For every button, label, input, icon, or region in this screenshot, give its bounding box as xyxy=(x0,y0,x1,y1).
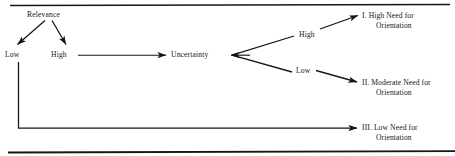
bottom-rule xyxy=(8,151,455,152)
outcome-2-line-2: Orientation xyxy=(362,88,431,98)
outcome-2-line-1: II. Moderate Need for xyxy=(362,78,431,87)
node-uncertainty: Uncertainty xyxy=(171,50,209,60)
outcome-low-need: III. Low Need for Orientation xyxy=(362,123,418,143)
node-uncertainty-low: Low xyxy=(296,66,310,76)
outcome-moderate-need: II. Moderate Need for Orientation xyxy=(362,78,431,98)
outcome-3-line-1: III. Low Need for xyxy=(362,123,418,132)
top-rule xyxy=(10,5,450,6)
outcome-high-need: I. High Need for Orientation xyxy=(362,11,414,31)
outcome-3-line-2: Orientation xyxy=(362,133,418,143)
node-relevance-low: Low xyxy=(5,50,19,60)
edge-high-to-outcome-1 xyxy=(320,16,358,30)
node-uncertainty-high: High xyxy=(299,30,315,40)
outcome-1-line-1: I. High Need for xyxy=(362,11,414,20)
edge-relevance-to-high xyxy=(52,21,66,45)
node-relevance-high: High xyxy=(51,50,67,60)
edge-fork-to-low xyxy=(232,55,292,72)
node-relevance: Relevance xyxy=(27,10,60,20)
edge-fork-to-high xyxy=(232,36,294,55)
need-for-orientation-diagram: Relevance Low High Uncertainty High Low … xyxy=(0,0,455,156)
edge-relevance-to-low xyxy=(18,21,46,45)
edge-low-to-outcome-2 xyxy=(316,71,357,83)
outcome-1-line-2: Orientation xyxy=(362,21,414,31)
